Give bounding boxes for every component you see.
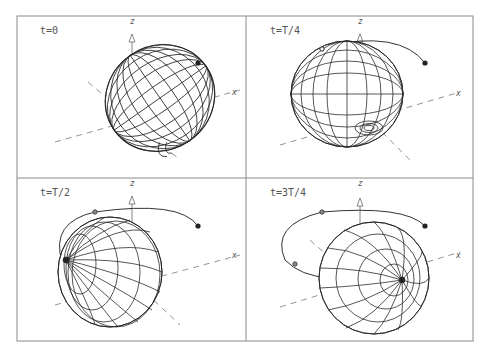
z-axis-label: z <box>130 179 135 188</box>
marker-point-open <box>93 210 97 214</box>
panel-label: t=T/4 <box>270 25 300 36</box>
x-axis-label: x <box>455 89 461 98</box>
deformed-sphere <box>319 222 429 334</box>
marker-point <box>195 60 200 65</box>
deformed-sphere <box>84 23 235 172</box>
panel-t0: t=0 z x <box>40 17 240 173</box>
marker-point-open <box>320 210 324 214</box>
panel-label: t=0 <box>40 25 58 36</box>
z-axis-label: z <box>358 17 363 26</box>
x-axis-label: x <box>231 251 237 260</box>
panel-tT2: t=T/2 z x <box>40 179 240 327</box>
z-axis-arrow-icon <box>129 196 135 204</box>
z-axis-arrow-icon <box>129 34 135 42</box>
panel-t3T4: t=3T/4 z x <box>270 179 461 334</box>
marker-point <box>195 223 200 228</box>
panel-label: t=3T/4 <box>270 187 306 198</box>
x-axis-label: x <box>455 251 461 260</box>
z-axis-label: z <box>358 179 363 188</box>
z-axis-label: z <box>130 17 135 26</box>
marker-point <box>422 223 427 228</box>
marker-point-open <box>320 47 324 51</box>
marker-point-open <box>293 262 297 266</box>
z-axis-arrow-icon <box>357 198 363 206</box>
deformed-sphere <box>291 41 403 147</box>
x-axis-label: x <box>231 88 237 97</box>
deformed-sphere <box>58 217 162 327</box>
panel-tT4: t=T/4 z x <box>270 17 461 160</box>
marker-point <box>422 60 427 65</box>
panel-label: t=T/2 <box>40 187 70 198</box>
four-panel-deformation-figure: t=0 z x <box>0 0 489 358</box>
